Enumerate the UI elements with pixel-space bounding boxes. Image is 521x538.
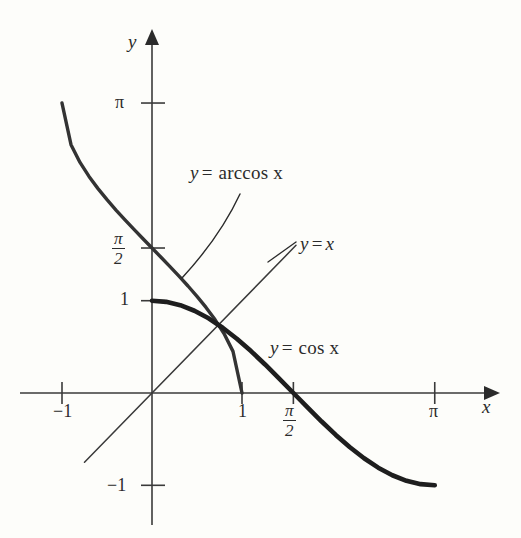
cos-label-operator: = [279,337,296,358]
y-tick-label-pi-over-2: π 2 [112,230,125,268]
y-tick-label-pi: π [115,93,124,111]
x-tick-label-pi-over-2: π 2 [283,402,296,440]
arccos-label-operator: = [199,162,216,183]
fraction-numerator: π [112,230,125,248]
cos-label-rhs: cos x [296,337,340,358]
y-axis-ticks [141,103,165,485]
identity-curve-label: y=x [300,234,334,253]
axes-group [20,38,484,525]
identity-label-rhs: x [326,233,335,254]
graph-canvas [0,0,521,538]
arccos-label-leader [182,194,240,278]
y-tick-label-1: 1 [120,290,129,308]
fraction-pi-over-2-y: π 2 [112,230,125,268]
fraction-denominator: 2 [283,420,296,439]
arccos-curve [62,103,152,302]
fraction-denominator: 2 [112,248,125,267]
identity-label-lhs: y [300,233,309,254]
identity-label-operator: = [309,233,326,254]
fraction-pi-over-2: π 2 [283,402,296,440]
x-tick-label--1: −1 [53,402,72,420]
y-axis-label: y [128,32,136,51]
x-axis-label: x [482,397,490,416]
cos-label-lhs: y [270,337,279,358]
x-tick-label-1: 1 [238,402,247,420]
arccos-label-rhs: arccos x [216,162,283,183]
x-tick-label-pi: π [429,402,438,420]
arccos-curve-label: y=arccos x [190,163,283,182]
y-axis-arrowhead [145,29,159,45]
cos-curve-label: y=cos x [270,338,339,357]
identity-line-curve [85,245,297,462]
graph-figure: y x −1 1 π 2 π π π 2 1 −1 y=arccos x y=x… [0,0,521,538]
y-tick-label--1: −1 [107,476,126,494]
arccos-label-lhs: y [190,162,199,183]
fraction-numerator: π [283,402,296,420]
